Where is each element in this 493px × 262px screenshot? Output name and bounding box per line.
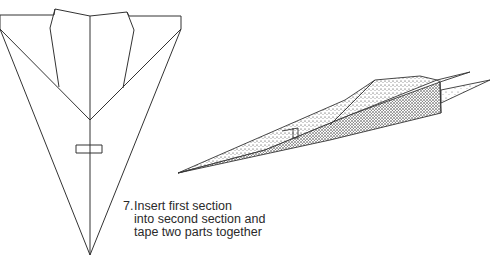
step-number: 7.	[123, 200, 134, 213]
step-caption: 7.Insert first section into second secti…	[123, 200, 265, 239]
upper-wing	[178, 76, 437, 173]
caption-line-3: tape two parts together	[123, 226, 265, 239]
tail-fin	[441, 80, 490, 103]
tail-side	[437, 72, 470, 82]
diagram-canvas: 7.Insert first section into second secti…	[0, 0, 493, 262]
